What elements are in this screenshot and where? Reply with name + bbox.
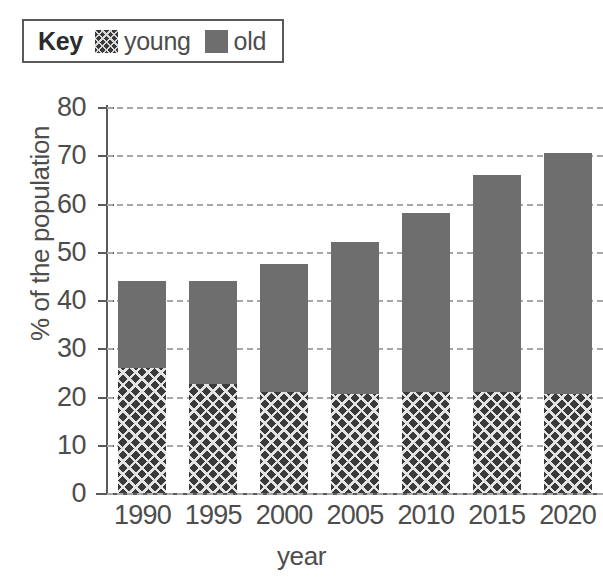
x-tick-label: 2000 — [256, 500, 313, 531]
gridline — [107, 204, 603, 206]
y-tick-label: 80 — [30, 92, 86, 123]
stacked-bar-chart: % of the population 01020304050607080 19… — [0, 0, 603, 588]
y-tick-label: 0 — [30, 478, 86, 509]
y-tick-label: 20 — [30, 381, 86, 412]
x-tick-label: 2015 — [468, 500, 525, 531]
bar-1990[interactable] — [118, 281, 166, 493]
x-tick-label: 2010 — [397, 500, 454, 531]
bar-2000[interactable] — [260, 264, 308, 493]
bar-segment-old — [544, 153, 592, 394]
bar-2010[interactable] — [402, 213, 450, 493]
bar-segment-young — [402, 392, 450, 493]
bar-2005[interactable] — [331, 242, 379, 493]
y-tick-label: 70 — [30, 140, 86, 171]
y-tick-label: 10 — [30, 429, 86, 460]
bar-segment-young — [473, 392, 521, 493]
x-tick-label: 2005 — [327, 500, 384, 531]
y-tick-label: 50 — [30, 236, 86, 267]
y-tick-label: 40 — [30, 285, 86, 316]
bar-segment-young — [331, 394, 379, 493]
bar-segment-old — [402, 213, 450, 392]
bar-segment-young — [118, 368, 166, 493]
bar-segment-old — [331, 242, 379, 394]
x-tick-label: 2020 — [539, 500, 596, 531]
x-tick-label: 1990 — [114, 500, 171, 531]
bar-segment-young — [189, 384, 237, 493]
y-tick-label: 30 — [30, 333, 86, 364]
gridline — [107, 493, 603, 495]
bar-segment-old — [118, 281, 166, 368]
bar-segment-young — [544, 394, 592, 493]
bar-2020[interactable] — [544, 153, 592, 493]
bar-segment-old — [189, 281, 237, 385]
bar-1995[interactable] — [189, 281, 237, 493]
bar-segment-old — [260, 264, 308, 392]
x-tick-label: 1995 — [185, 500, 242, 531]
bar-segment-old — [473, 175, 521, 392]
gridline — [107, 107, 603, 109]
bar-2015[interactable] — [473, 175, 521, 493]
bar-segment-young — [260, 392, 308, 493]
y-tick-label: 60 — [30, 188, 86, 219]
x-axis-title: year — [0, 541, 603, 572]
plot-area — [107, 107, 603, 493]
gridline — [107, 155, 603, 157]
